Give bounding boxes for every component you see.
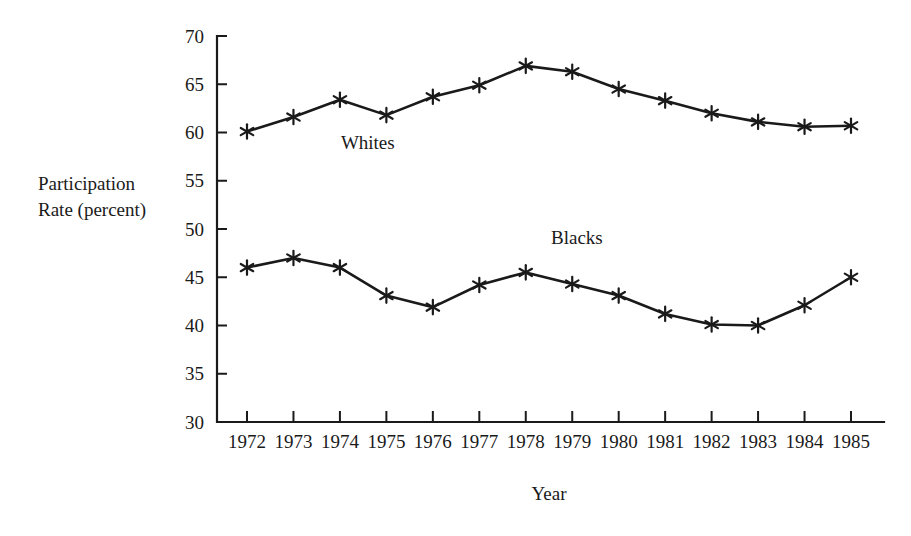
y-axis-title-line-2: Rate (percent) [38, 199, 146, 221]
series-markers [241, 59, 857, 333]
data-point-marker [845, 270, 857, 284]
x-tick-label: 1979 [553, 431, 591, 452]
series-lines [247, 66, 851, 326]
data-point-marker [798, 298, 810, 312]
line-chart: 303540455055606570 197219731974197519761… [0, 0, 911, 536]
x-tick-label: 1972 [228, 431, 266, 452]
x-tick-label: 1974 [321, 431, 360, 452]
x-tick-label: 1983 [739, 431, 777, 452]
series-label-whites: Whites [341, 132, 395, 153]
x-axis-tick-marks [247, 411, 851, 422]
y-tick-label: 60 [185, 122, 204, 143]
series-label-blacks: Blacks [551, 227, 603, 248]
x-axis-tick-labels: 1972197319741975197619771978197919801981… [228, 431, 870, 452]
y-axis-title-line-1: Participation [38, 173, 136, 194]
y-tick-label: 50 [185, 219, 204, 240]
y-tick-label: 45 [185, 267, 204, 288]
x-tick-label: 1976 [414, 431, 452, 452]
y-axis-tick-marks [217, 36, 227, 422]
x-tick-label: 1985 [832, 431, 870, 452]
x-tick-label: 1973 [274, 431, 312, 452]
x-tick-label: 1982 [693, 431, 731, 452]
y-tick-label: 40 [185, 315, 204, 336]
data-point-marker [334, 92, 346, 106]
y-tick-label: 65 [185, 74, 204, 95]
x-axis-title: Year [531, 483, 567, 504]
data-point-marker [380, 108, 392, 122]
y-tick-label: 70 [185, 26, 204, 47]
x-tick-label: 1977 [460, 431, 498, 452]
chart-figure: 303540455055606570 197219731974197519761… [0, 0, 911, 536]
x-tick-label: 1981 [646, 431, 684, 452]
y-axis-tick-labels: 303540455055606570 [185, 26, 204, 433]
x-tick-label: 1980 [600, 431, 638, 452]
x-tick-label: 1984 [786, 431, 825, 452]
x-tick-label: 1975 [367, 431, 405, 452]
x-tick-label: 1978 [507, 431, 545, 452]
series-annotations: WhitesBlacks [341, 132, 603, 249]
y-tick-label: 30 [185, 412, 204, 433]
y-tick-label: 55 [185, 170, 204, 191]
y-tick-label: 35 [185, 363, 204, 384]
